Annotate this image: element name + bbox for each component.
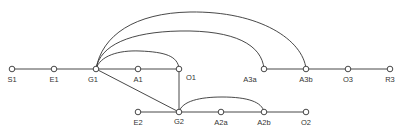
node-label-e2: E2 (133, 118, 142, 127)
node-g2-circle-icon (176, 109, 182, 115)
node-label-g2: G2 (174, 117, 184, 126)
node-a3b-circle-icon (303, 66, 309, 72)
node-label-a2b: A2b (257, 118, 270, 127)
node-r3-circle-icon (387, 66, 393, 72)
node-e1-circle-icon (51, 66, 57, 72)
node-label-a2a: A2a (214, 118, 228, 127)
node-a1-circle-icon (135, 66, 141, 72)
node-o2-circle-icon (303, 109, 309, 115)
node-label-e1: E1 (49, 75, 58, 84)
node-label-g1: G1 (88, 75, 98, 84)
node-label-o2: O2 (301, 118, 311, 127)
labels-group: S1E1G1A1O1A3aA3bO3R3E2G2A2aA2bO2 (7, 73, 394, 127)
node-label-a3b: A3b (299, 75, 312, 84)
node-o3-circle-icon (345, 66, 351, 72)
edge-g1-a3b (96, 12, 306, 69)
node-label-a3a: A3a (243, 75, 257, 84)
node-label-a1: A1 (133, 75, 142, 84)
node-o1-circle-icon (176, 66, 182, 72)
node-a3a-circle-icon (261, 66, 267, 72)
graph-diagram: S1E1G1A1O1A3aA3bO3R3E2G2A2aA2bO2 (0, 0, 402, 133)
node-s1-circle-icon (9, 66, 15, 72)
edges-group (12, 12, 390, 112)
node-label-r3: R3 (385, 75, 395, 84)
node-label-o1: O1 (186, 73, 196, 82)
edge-g1-a3a (96, 31, 264, 69)
node-label-s1: S1 (7, 75, 16, 84)
node-a2b-circle-icon (261, 109, 267, 115)
nodes-group (9, 66, 393, 115)
node-e2-circle-icon (135, 109, 141, 115)
node-label-o3: O3 (343, 75, 353, 84)
node-g1-circle-icon (93, 66, 99, 72)
node-a2a-circle-icon (218, 109, 224, 115)
